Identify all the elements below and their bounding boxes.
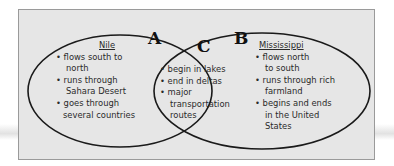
nile-item-2-cont: Sahara Desert xyxy=(56,86,135,98)
shared-item-2: • end in deltas xyxy=(160,76,230,88)
nile-item-1-cont: north xyxy=(56,63,135,75)
region-label-c: C xyxy=(197,36,211,56)
shared-item-3: • major xyxy=(160,87,230,99)
nile-item-3-cont: several countries xyxy=(56,110,135,122)
shared-item-3-cont-1: transportation xyxy=(160,99,230,111)
region-label-b: B xyxy=(234,28,248,48)
mississippi-item-1-cont: to south xyxy=(255,63,335,75)
shared-item-3-cont-2: routes xyxy=(160,110,230,122)
mississippi-title: Mississippi xyxy=(255,40,335,52)
nile-item-3: • goes through xyxy=(56,98,135,110)
nile-region-text: Nile • flows south to north • runs throu… xyxy=(56,40,135,121)
nile-title: Nile xyxy=(56,40,135,52)
mississippi-item-2: • runs through rich xyxy=(255,75,335,87)
mississippi-item-3-cont-1: in the United xyxy=(255,110,335,122)
mississippi-item-1: • flows north xyxy=(255,52,335,64)
region-label-a: A xyxy=(148,28,161,48)
shared-item-1: • begin in lakes xyxy=(160,64,230,76)
mississippi-region-text: Mississippi • flows north to south • run… xyxy=(255,40,335,133)
mississippi-item-3: • begins and ends xyxy=(255,98,335,110)
mississippi-item-3-cont-2: States xyxy=(255,121,335,133)
mississippi-item-2-cont: farmland xyxy=(255,86,335,98)
nile-item-2: • runs through xyxy=(56,75,135,87)
shared-region-text: • begin in lakes • end in deltas • major… xyxy=(160,64,230,122)
nile-item-1: • flows south to xyxy=(56,52,135,64)
